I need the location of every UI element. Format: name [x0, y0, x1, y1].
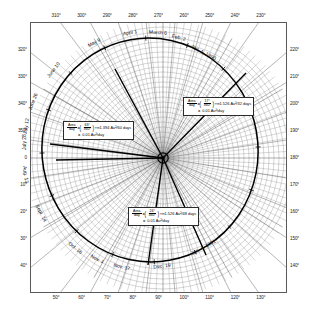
axis-tick-right-0: 220° — [290, 47, 299, 52]
angle-fraction-0: 17° 360° — [203, 100, 212, 108]
axis-tick-right-5: 170° — [290, 182, 299, 187]
axis-tick-left-7: 30° — [20, 236, 27, 241]
axis-tick-bottom-8: 130° — [256, 296, 265, 301]
annotation-sector-lower: Area day = ( 24° 360° ) ×π1.526 Au²/48 d… — [128, 207, 199, 226]
result-equals-1: = — [78, 133, 80, 137]
paren-open-1: ( — [80, 124, 82, 132]
axis-tick-left-2: 340° — [18, 101, 27, 106]
axis-tick-bottom-0: 50° — [53, 296, 60, 301]
axis-tick-top-0: 310° — [52, 14, 61, 19]
axis-tick-bottom-6: 110° — [205, 296, 214, 301]
axis-tick-left-4: 0 — [25, 155, 27, 160]
axis-tick-bottom-7: 120° — [231, 296, 240, 301]
axis-tick-top-4: 270° — [154, 14, 163, 19]
result-equals-2: = — [143, 219, 145, 223]
annotation-tail-1: ×π1.394 Au²/60 days — [95, 126, 132, 130]
axis-tick-left-6: 20° — [20, 209, 27, 214]
axis-tick-bottom-1: 60° — [78, 296, 85, 301]
angle-fraction-1: 63° 360° — [83, 124, 92, 132]
axis-tick-top-8: 230° — [256, 14, 265, 19]
axis-tick-right-7: 150° — [290, 236, 299, 241]
axis-tick-left-8: 40° — [20, 263, 27, 268]
axis-tick-right-4: 180° — [290, 155, 299, 160]
annotation-tail-2: ×π1.526 Au²/48 days — [160, 212, 197, 216]
orbit-date-label-9: Aug. 13 — [22, 166, 29, 184]
result-value-1: 0.01 Au²/day — [82, 133, 104, 137]
axis-tick-right-2: 200° — [290, 101, 299, 106]
figure-root: 310°300°290°280°270°260°250°240°230° 50°… — [0, 0, 317, 316]
area-per-day-fraction-0: Area day — [187, 100, 197, 108]
annotation-sector-upper-right: Area day = ( 17° 360° ) ×π1.526 Au²/32 d… — [183, 97, 254, 116]
axis-tick-top-6: 250° — [205, 14, 214, 19]
axis-tick-top-3: 280° — [128, 14, 137, 19]
axis-tick-bottom-4: 90° — [155, 296, 162, 301]
annotation-sector-left: Area day = ( 63° 360° ) ×π1.394 Au²/60 d… — [63, 121, 134, 140]
axis-tick-left-0: 320° — [18, 47, 27, 52]
result-value-0: 0.01 Au²/day — [202, 109, 224, 113]
area-per-day-fraction-1: Area day — [67, 124, 77, 132]
axis-tick-bottom-3: 80° — [130, 296, 137, 301]
axis-tick-right-6: 160° — [290, 209, 299, 214]
axis-tick-left-1: 330° — [18, 74, 27, 79]
axis-tick-top-7: 240° — [231, 14, 240, 19]
axis-tick-top-2: 290° — [103, 14, 112, 19]
area-per-day-fraction-2: Area day — [132, 210, 142, 218]
orbit-date-label-8: July 28 — [22, 134, 27, 150]
result-equals-0: = — [198, 109, 200, 113]
annotation-tail-0: ×π1.526 Au²/32 days — [215, 102, 252, 106]
paren-open-0: ( — [200, 100, 202, 108]
axis-tick-right-1: 210° — [290, 74, 299, 79]
axis-tick-right-3: 190° — [290, 128, 299, 133]
axis-tick-top-1: 300° — [77, 14, 86, 19]
angle-fraction-2: 24° 360° — [148, 210, 157, 218]
axis-tick-right-8: 140° — [290, 263, 299, 268]
result-value-2: 0.01 Au²/day — [147, 219, 169, 223]
axis-tick-top-5: 260° — [180, 14, 189, 19]
paren-open-2: ( — [145, 210, 147, 218]
axis-tick-bottom-5: 100° — [180, 296, 189, 301]
axis-tick-bottom-2: 70° — [104, 296, 111, 301]
